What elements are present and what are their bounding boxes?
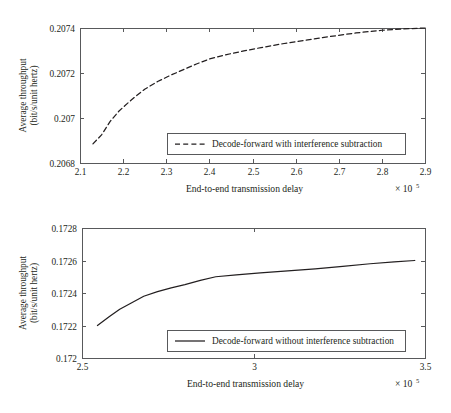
y-axis-title: Average throughput(bit/s/unit hertz)	[18, 256, 40, 330]
x-axis-title: End-to-end transmission delay	[187, 378, 304, 389]
x-axis-multiplier-exponent: 5	[416, 182, 420, 189]
x-axis-multiplier: × 105	[395, 377, 420, 390]
chart-top-svg: 2.12.22.32.42.52.62.72.82.90.20680.2070.…	[0, 0, 451, 205]
chart-panel-bottom: 2.533.50.1720.17220.17240.17260.1728Aver…	[0, 205, 451, 413]
y-tick-label: 0.172	[56, 354, 77, 364]
y-axis-title-line1: Average throughput	[18, 256, 28, 330]
legend[interactable]: Decode-forward without interference subt…	[168, 331, 406, 352]
y-axis-title-line2: (bit/s/unit hertz)	[29, 65, 40, 125]
x-axis-multiplier-base: × 10	[395, 183, 413, 194]
x-tick-label: 2.5	[77, 362, 89, 372]
x-axis-title: End-to-end transmission delay	[186, 183, 303, 194]
y-tick-label: 0.2074	[49, 24, 75, 34]
x-tick-label: 2.2	[118, 167, 130, 177]
chart-bottom-svg: 2.533.50.1720.17220.17240.17260.1728Aver…	[0, 205, 451, 413]
x-axis-multiplier-base: × 10	[395, 378, 413, 389]
y-tick-label: 0.2068	[49, 159, 75, 169]
y-tick-label: 0.1728	[51, 224, 77, 234]
x-tick-label: 2.1	[75, 167, 87, 177]
x-tick-label: 2.3	[161, 167, 173, 177]
data-series-line	[97, 261, 414, 326]
y-tick-label: 0.1722	[51, 322, 77, 332]
x-tick-label: 2.4	[204, 167, 216, 177]
x-tick-label: 3.5	[420, 362, 432, 372]
y-axis-title-line2: (bit/s/unit hertz)	[29, 263, 40, 323]
x-axis-multiplier: × 105	[395, 182, 420, 195]
y-tick-label: 0.1726	[51, 257, 77, 267]
legend-label: Decode-forward without interference subt…	[212, 336, 394, 346]
data-series-line	[93, 28, 425, 144]
x-tick-label: 2.7	[334, 167, 346, 177]
figure-container: 2.12.22.32.42.52.62.72.82.90.20680.2070.…	[0, 0, 451, 413]
chart-panel-top: 2.12.22.32.42.52.62.72.82.90.20680.2070.…	[0, 0, 451, 205]
y-tick-label: 0.2072	[49, 69, 75, 79]
y-tick-label: 0.207	[54, 114, 75, 124]
x-tick-label: 2.8	[377, 167, 389, 177]
x-axis-multiplier-exponent: 5	[416, 377, 420, 384]
y-tick-label: 0.1724	[51, 289, 77, 299]
x-tick-label: 3	[252, 362, 257, 372]
legend[interactable]: Decode-forward with interference subtrac…	[168, 134, 406, 155]
legend-label: Decode-forward with interference subtrac…	[212, 139, 382, 149]
x-tick-label: 2.9	[420, 167, 432, 177]
y-axis-title: Average throughput(bit/s/unit hertz)	[18, 58, 40, 132]
x-tick-label: 2.5	[248, 167, 260, 177]
y-axis-title-line1: Average throughput	[18, 58, 28, 132]
x-tick-label: 2.6	[291, 167, 303, 177]
